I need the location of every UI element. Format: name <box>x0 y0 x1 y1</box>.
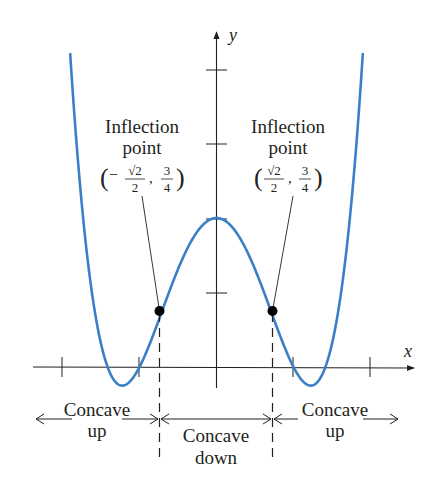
inflection-label-right: Inflection point ( √2 2 , 3 4 ) <box>251 116 325 195</box>
frac-y-den: 4 <box>302 180 309 195</box>
leader-line-right <box>273 196 294 311</box>
x-axis-label: x <box>403 341 412 361</box>
comma: , <box>149 170 153 186</box>
paren-close: ) <box>176 163 185 192</box>
minus-sign: − <box>109 166 118 183</box>
frac-x-num: √2 <box>128 163 142 178</box>
concavity-right-line2: up <box>326 420 345 441</box>
concavity-right-line1: Concave <box>302 399 368 420</box>
inflection-label-left: Inflection point ( − √2 2 , 3 4 ) <box>100 116 185 195</box>
frac-y-num: 3 <box>302 163 309 178</box>
inflection-label-left-line1: Inflection <box>105 116 179 137</box>
concavity-left-line1: Concave <box>64 399 130 420</box>
frac-x-den: 2 <box>132 180 139 195</box>
concavity-middle-line2: down <box>195 447 238 468</box>
concavity-middle-line1: Concave <box>183 425 249 446</box>
y-axis-label: y <box>227 25 237 45</box>
frac-y-num: 3 <box>164 163 171 178</box>
concavity-diagram: x y Inflection point ( − √2 2 , 3 4 ) <box>0 0 431 485</box>
paren-open: ( <box>254 163 263 192</box>
concavity-left-line2: up <box>88 420 107 441</box>
paren-open: ( <box>100 163 109 192</box>
frac-x-den: 2 <box>271 180 278 195</box>
inflection-label-right-line2: point <box>268 137 308 158</box>
inflection-label-right-line1: Inflection <box>251 116 325 137</box>
inflection-label-left-line2: point <box>122 137 162 158</box>
frac-x-num: √2 <box>267 163 281 178</box>
comma: , <box>288 170 292 186</box>
paren-close: ) <box>314 163 323 192</box>
x-axis <box>33 367 414 368</box>
inflection-point-left <box>155 306 165 316</box>
inflection-point-right <box>268 306 278 316</box>
frac-y-den: 4 <box>164 180 171 195</box>
leader-line-left <box>142 196 160 311</box>
